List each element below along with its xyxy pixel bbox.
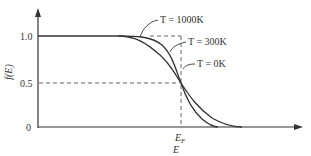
y-tick-05: 0.5 — [20, 78, 33, 89]
leader-lines — [140, 20, 195, 69]
label-t0k: T = 0K — [197, 58, 227, 69]
reference-lines — [39, 36, 181, 127]
leader-1000k — [140, 20, 158, 37]
y-axis-arrow-icon — [35, 8, 41, 17]
leader-300k — [170, 42, 186, 52]
leader-0k — [183, 64, 195, 69]
curve-300k — [118, 36, 218, 127]
label-t1000k: T = 1000K — [160, 14, 205, 25]
label-t300k: T = 300K — [188, 36, 228, 47]
y-tick-1: 1.0 — [20, 31, 33, 42]
y-tick-0: 0 — [26, 122, 31, 133]
fermi-dirac-chart: 1.0 0.5 0 f(E) EF E T = 1000K T = 300K T… — [0, 0, 311, 156]
x-axis-arrow-icon — [294, 124, 303, 130]
y-axis-label: f(E) — [3, 64, 15, 80]
axes — [38, 14, 297, 128]
x-axis-label: E — [172, 144, 179, 155]
